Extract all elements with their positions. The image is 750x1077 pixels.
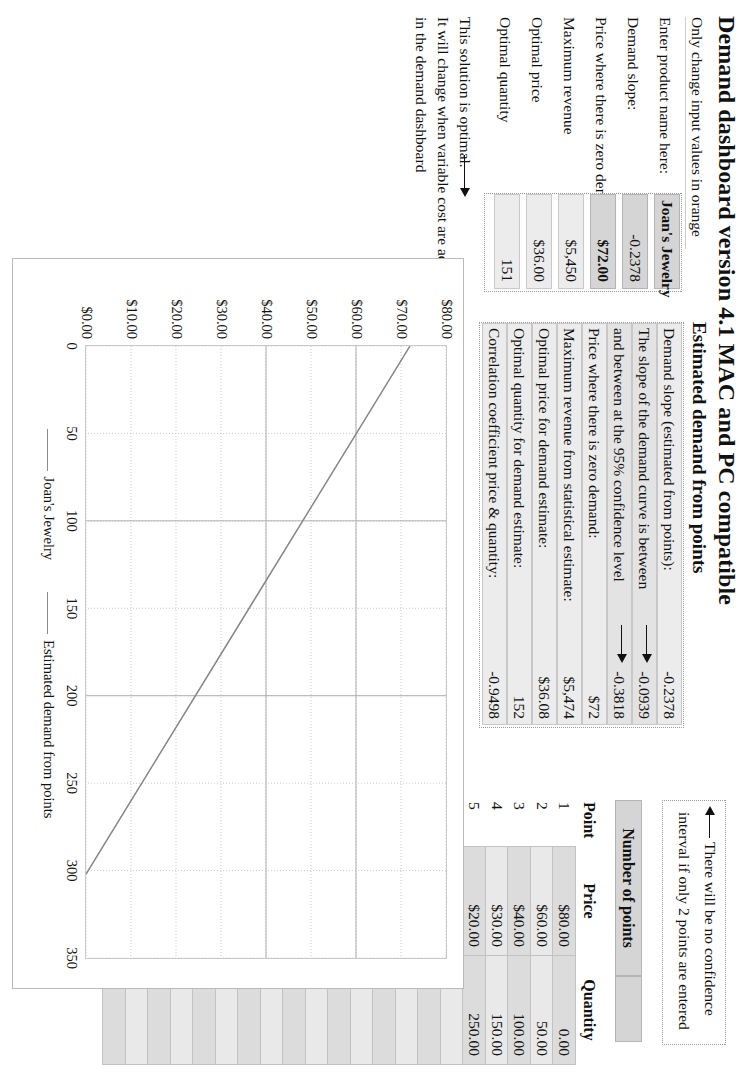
point-index-cell: 5 <box>463 800 486 846</box>
input-label-product-name: Enter product name here: <box>656 17 674 174</box>
y-axis-tick-label: $70.00 <box>393 299 410 339</box>
confidence-note-line-2: interval if only 2 points are entered <box>675 812 693 1030</box>
spreadsheet-dashboard: Demand dashboard version 4.1 MAC and PC … <box>0 0 750 1077</box>
points-header-quantity: Quantity <box>576 955 601 1064</box>
y-axis-tick-label: $40.00 <box>258 299 275 339</box>
quantity-cell[interactable]: 0.00 <box>553 955 576 1064</box>
estimated-label-max-revenue: Maximum revenue from statistical estimat… <box>560 328 578 602</box>
table-row: 1$80.000.00 <box>553 800 576 1064</box>
estimated-value-optimal-price: $36.08 <box>535 620 553 719</box>
x-axis-tick-label: 350 <box>63 947 80 969</box>
optimal-note-line-2: It will change when variable cost are ad… <box>434 17 452 286</box>
estimated-value-slope: -0.2378 <box>660 620 678 719</box>
output-value-max-revenue: $5,450 <box>558 194 584 289</box>
quantity-cell[interactable]: 250.00 <box>463 955 486 1064</box>
quantity-cell[interactable]: 100.00 <box>508 955 531 1064</box>
optimal-callout-arrow-head <box>460 188 470 197</box>
estimated-value-optimal-quantity: 152 <box>510 620 528 719</box>
legend-item: Estimated demand from points <box>40 592 57 818</box>
points-table-header-row: Point Price Quantity <box>576 800 601 1064</box>
table-row: 4$30.00150.00 <box>486 800 509 1064</box>
input-label-max-revenue: Maximum revenue <box>560 17 578 135</box>
quantity-cell[interactable]: 50.00 <box>531 955 554 1064</box>
points-header-price: Price <box>576 846 601 955</box>
y-axis-tick-label: $60.00 <box>348 299 365 339</box>
point-index-cell: 2 <box>531 800 554 846</box>
confidence-note-line-1: There will be no confidence <box>701 842 719 1016</box>
input-label-optimal-price: Optimal price <box>528 17 546 103</box>
estimated-label-zero-demand: Price where there is zero demand: <box>585 328 603 538</box>
output-value-optimal-quantity: 151 <box>494 194 520 289</box>
page-title: Demand dashboard version 4.1 MAC and PC … <box>713 16 740 605</box>
x-axis-tick-label: 300 <box>63 860 80 882</box>
point-index-cell: 4 <box>486 800 509 846</box>
table-row: 2$60.0050.00 <box>531 800 554 1064</box>
x-axis-tick-label: 150 <box>63 597 80 619</box>
rotated-page-canvas: Demand dashboard version 4.1 MAC and PC … <box>0 0 750 1077</box>
chart-legend: Joan's JewelryEstimated demand from poin… <box>40 259 57 988</box>
input-value-product-name[interactable]: Joan's Jewelry <box>654 194 680 289</box>
points-header-point: Point <box>576 800 601 846</box>
note-arrow-head <box>705 806 715 815</box>
chart-plot-area: $0.00$10.00$20.00$30.00$40.00$50.00$60.0… <box>85 345 447 959</box>
demand-chart: $0.00$10.00$20.00$30.00$40.00$50.00$60.0… <box>12 258 464 989</box>
output-value-optimal-price: $36.00 <box>526 194 552 289</box>
x-axis-tick-label: 250 <box>63 772 80 794</box>
optimal-note-line-3: in the demand dashboard <box>412 17 430 172</box>
legend-label: Estimated demand from points <box>41 640 57 818</box>
input-value-demand-slope[interactable]: -0.2378 <box>622 194 648 289</box>
chart-series-line <box>86 346 410 874</box>
legend-swatch-icon <box>47 592 48 634</box>
price-cell[interactable]: $40.00 <box>508 846 531 955</box>
price-cell[interactable]: $30.00 <box>486 846 509 955</box>
estimated-value-slope-lower: -0.3818 <box>610 620 628 719</box>
legend-item: Joan's Jewelry <box>40 429 57 561</box>
number-of-points-label: Number of points <box>615 800 642 976</box>
price-cell[interactable]: $60.00 <box>531 846 554 955</box>
quantity-cell[interactable]: 150.00 <box>486 955 509 1064</box>
x-axis-tick-label: 50 <box>63 426 80 441</box>
input-value-zero-demand-price[interactable]: $72.00 <box>590 194 616 289</box>
table-row: 3$40.00100.00 <box>508 800 531 1064</box>
x-axis-tick-label: 200 <box>63 685 80 707</box>
estimated-value-zero-demand: $72 <box>585 620 603 719</box>
y-axis-tick-label: $20.00 <box>168 299 185 339</box>
x-axis-tick-label: 0 <box>63 342 80 349</box>
estimated-label-correlation: Correlation coefficient price & quantity… <box>485 328 503 578</box>
estimated-label-slope-upper: The slope of the demand curve is between <box>635 328 653 589</box>
input-label-demand-slope: Demand slope: <box>624 17 642 110</box>
y-axis-tick-label: $30.00 <box>213 299 230 339</box>
point-index-cell: 1 <box>553 800 576 846</box>
x-axis-tick-label: 100 <box>63 510 80 532</box>
estimated-label-optimal-quantity: Optimal quantity for demand estimate: <box>510 328 528 568</box>
table-row: 5$20.00250.00 <box>463 800 486 1064</box>
estimated-label-slope-lower: and between at the 95% confidence level <box>610 328 628 582</box>
estimated-label-optimal-price: Optimal price for demand estimate: <box>535 328 553 548</box>
legend-label: Joan's Jewelry <box>41 477 57 561</box>
note-arrow-line <box>709 812 710 838</box>
chart-svg <box>86 346 446 958</box>
price-cell[interactable]: $80.00 <box>553 846 576 955</box>
y-axis-tick-label: $10.00 <box>123 299 140 339</box>
y-axis-tick-label: $50.00 <box>303 299 320 339</box>
price-cell[interactable]: $20.00 <box>463 846 486 955</box>
estimated-label-slope: Demand slope (estimated from points): <box>660 328 678 571</box>
input-label-optimal-quantity: Optimal quantity <box>496 17 514 122</box>
estimated-value-correlation: -0.9498 <box>485 620 503 719</box>
y-axis-tick-label: $0.00 <box>78 306 95 339</box>
optimal-note-line-1: This solution is optimal. <box>456 17 474 168</box>
header-divider <box>685 17 686 249</box>
estimated-value-max-revenue: $5,474 <box>560 620 578 719</box>
point-index-cell: 3 <box>508 800 531 846</box>
y-axis-tick-label: $80.00 <box>438 299 455 339</box>
estimated-value-slope-upper: -0.0939 <box>635 620 653 719</box>
page-subtitle: Only change input values in orange <box>688 17 706 237</box>
estimated-demand-title: Estimated demand from points <box>688 322 710 573</box>
number-of-points-value <box>615 976 642 1042</box>
legend-swatch-icon <box>47 429 48 471</box>
